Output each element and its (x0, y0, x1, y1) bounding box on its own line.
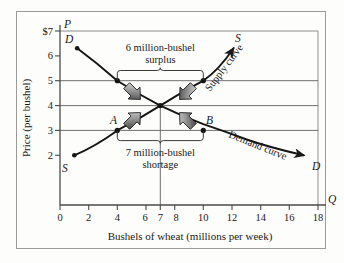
x-tick-2: 2 (86, 212, 91, 223)
surplus-brace (117, 68, 203, 80)
x-tick-12: 12 (227, 212, 238, 223)
x-tick-0: 0 (57, 212, 62, 223)
demand-endpoint-dot (75, 46, 80, 51)
y-axis-ticks: $7 6 5 4 3 2 (43, 26, 61, 161)
x-tick-10: 10 (198, 212, 209, 223)
supply-endpoint-dot (72, 153, 77, 158)
surplus-arrow-left (121, 80, 147, 106)
x-axis-symbol: Q (328, 193, 337, 205)
x-tick-18: 18 (313, 212, 324, 223)
point-a-label: A (109, 114, 118, 126)
demand-curve (75, 46, 304, 155)
supply-demand-chart: $7 6 5 4 3 2 0 2 4 6 7 8 10 1 (0, 0, 344, 263)
surplus-label-line2: surplus (145, 54, 175, 65)
y-tick-4: 4 (48, 100, 54, 111)
surplus-arrow-right (174, 80, 200, 106)
x-axis-title: Bushels of wheat (millions per week) (108, 230, 273, 243)
y-tick-7: $7 (43, 26, 54, 37)
shortage-label-line2: shortage (143, 159, 179, 170)
x-tick-4: 4 (115, 212, 121, 223)
y-axis-symbol: P (63, 18, 71, 30)
supply-curve-label: Supply curve (203, 42, 246, 93)
y-tick-6: 6 (48, 50, 53, 61)
x-tick-14: 14 (255, 212, 266, 223)
supply-bottom-label: S (62, 162, 68, 174)
x-tick-16: 16 (284, 212, 295, 223)
demand-bottom-label: D (311, 160, 321, 172)
point-equilibrium (158, 103, 163, 108)
point-b-label: B (206, 114, 213, 126)
supply-demand-figure: $7 6 5 4 3 2 0 2 4 6 7 8 10 1 (0, 0, 344, 263)
shortage-arrow-right (174, 107, 200, 133)
shortage-label-line1: 7 million-bushel (126, 147, 195, 158)
y-tick-2: 2 (48, 150, 53, 161)
x-tick-7: 7 (158, 212, 163, 223)
y-tick-3: 3 (48, 125, 53, 136)
x-axis-ticks: 0 2 4 6 7 8 10 12 14 16 18 (57, 205, 323, 223)
y-tick-5: 5 (48, 75, 53, 86)
x-tick-8: 8 (173, 212, 178, 223)
demand-top-label: D (64, 33, 74, 45)
demand-curve-label: Demand curve (227, 129, 288, 162)
surplus-label-line1: 6 million-bushel (126, 42, 195, 53)
y-axis-title: Price (per bushel) (20, 79, 33, 158)
x-tick-6: 6 (142, 212, 147, 223)
shortage-arrow-left (121, 107, 147, 133)
